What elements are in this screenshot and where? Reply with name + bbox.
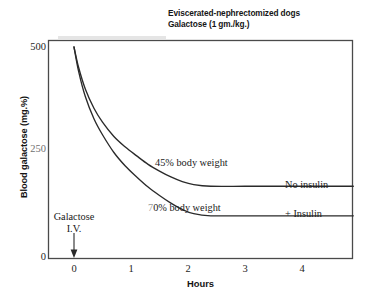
plot-area xyxy=(0,0,367,304)
series-line-70-percent-body-weight xyxy=(74,47,353,216)
injection-arrow-icon xyxy=(71,233,78,258)
annotation-plus-insulin: + Insulin xyxy=(285,208,322,219)
annotation-galactose-iv-line-1: Galactose xyxy=(40,211,108,223)
annotation-45-percent-body-weight: 45% body weight xyxy=(155,157,228,168)
annotation-no-insulin: No insulin xyxy=(285,179,328,190)
chart-figure: Eviscerated-nephrectomized dogs Galactos… xyxy=(0,0,367,304)
annotation-galactose-iv-line-2: I.V. xyxy=(40,223,108,235)
annotation-70-percent-rest: 0% body weight xyxy=(153,202,221,213)
annotation-galactose-iv: Galactose I.V. xyxy=(40,211,108,234)
annotation-70-percent-body-weight: 70% body weight xyxy=(148,202,221,213)
